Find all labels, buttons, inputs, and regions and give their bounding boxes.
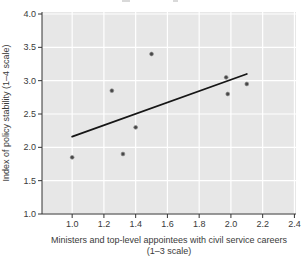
scatter-plot-figure: 1.01.21.41.61.82.02.22.41.01.52.02.53.03…	[0, 0, 305, 262]
x-axis-title-line2: (1–3 scale)	[147, 246, 192, 256]
y-tick-label: 2.0	[23, 142, 36, 152]
data-point	[224, 75, 228, 79]
y-tick-label: 1.0	[23, 209, 36, 219]
scatter-chart: 1.01.21.41.61.82.02.22.41.01.52.02.53.03…	[0, 0, 305, 262]
y-tick-label: 3.0	[23, 76, 36, 86]
x-axis-title-line1: Ministers and top-level appointees with …	[51, 235, 288, 245]
y-tick-label: 2.5	[23, 109, 36, 119]
y-tick-label: 3.5	[23, 42, 36, 52]
x-tick-label: 1.4	[129, 219, 142, 229]
data-point	[110, 89, 114, 93]
data-point	[70, 155, 74, 159]
data-point	[150, 52, 154, 56]
x-tick-label: 1.2	[98, 219, 111, 229]
data-point	[121, 152, 125, 156]
plot-background	[42, 12, 296, 214]
data-point	[245, 82, 249, 86]
x-tick-label: 2.0	[225, 219, 238, 229]
y-tick-label: 4.0	[23, 9, 36, 19]
y-tick-label: 1.5	[23, 176, 36, 186]
x-tick-label: 2.4	[288, 219, 301, 229]
x-tick-label: 1.6	[161, 219, 174, 229]
y-axis-title: Index of policy stability (1–4 scale)	[1, 44, 11, 181]
data-point	[134, 125, 138, 129]
x-tick-label: 2.2	[256, 219, 269, 229]
data-point	[226, 92, 230, 96]
x-tick-label: 1.0	[66, 219, 79, 229]
x-tick-label: 1.8	[193, 219, 206, 229]
